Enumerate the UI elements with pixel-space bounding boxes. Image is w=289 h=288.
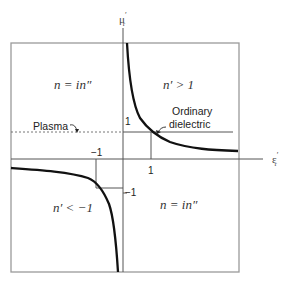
x-axis-label-sub: r bbox=[274, 160, 276, 168]
hyperbola-upper-branch bbox=[127, 43, 238, 151]
ordinary-label: Ordinary bbox=[172, 106, 212, 117]
region-bottom-left-label: n′ < −1 bbox=[53, 201, 93, 214]
region-bottom-right-label: n = in″ bbox=[160, 198, 197, 211]
y-axis-label-sup: ′ bbox=[125, 11, 127, 20]
x-tick-negative: −1 bbox=[91, 148, 102, 158]
plasma-label: Plasma bbox=[33, 121, 68, 132]
plot-frame bbox=[11, 43, 239, 272]
region-top-right-label: n′ > 1 bbox=[163, 78, 194, 91]
region-top-left-label: n = in″ bbox=[54, 78, 91, 91]
hyperbola-lower-branch bbox=[11, 168, 118, 272]
y-tick-negative: −1 bbox=[125, 188, 136, 198]
dielectric-label: dielectric bbox=[169, 119, 210, 130]
y-axis-label-sub: r bbox=[123, 20, 125, 28]
x-axis-label-sup: ′ bbox=[277, 151, 279, 160]
x-tick-positive: 1 bbox=[148, 166, 154, 176]
dielectric-arrow-icon bbox=[158, 127, 166, 132]
y-axis-label: μ′r bbox=[119, 12, 125, 28]
diagram-canvas bbox=[0, 0, 289, 288]
y-tick-positive: 1 bbox=[125, 117, 131, 127]
x-axis-label: ε′r bbox=[272, 152, 277, 168]
